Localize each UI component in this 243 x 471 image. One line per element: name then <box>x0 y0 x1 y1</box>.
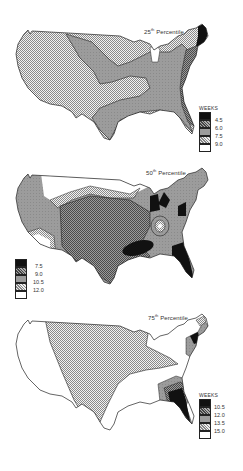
legend-swatch-black <box>199 399 211 407</box>
legend-swatch-gray <box>15 275 27 283</box>
map-title-75th: 75th Percentile <box>148 313 188 321</box>
legend-value: 12.0 <box>33 287 44 293</box>
legend-swatch-dense <box>199 120 211 128</box>
map-title-50th: 50th Percentile <box>146 168 186 176</box>
legend-value: 7.5 <box>215 133 223 139</box>
legend-swatch-black <box>199 112 211 120</box>
legend-value: 9.0 <box>35 271 43 277</box>
legend-header: WEEKS <box>199 105 218 111</box>
legend-swatch-gray <box>199 415 211 423</box>
map-panel-50th-percentile: 50th Percentile 7.5 9.0 10.5 12.0 <box>0 160 243 310</box>
map-panel-25th-percentile: 25th Percentile WEEKS 4.5 6.0 7.5 9.0 <box>0 0 243 160</box>
legend-25th: WEEKS 4.5 6.0 7.5 9.0 <box>199 105 218 152</box>
map-panel-75th-percentile: 75th Percentile WEEKS 10.5 12.0 13.5 15.… <box>0 310 243 471</box>
map-title-25th: 25th Percentile <box>144 27 184 35</box>
legend-header: WEEKS <box>199 392 218 398</box>
legend-value: 12.0 <box>214 412 225 418</box>
legend-swatch-white <box>199 144 211 152</box>
legend-value: 9.0 <box>215 141 223 147</box>
legend-value: 13.5 <box>214 420 225 426</box>
legend-swatch-checker <box>199 136 211 144</box>
legend-50th: 7.5 9.0 10.5 12.0 <box>15 259 27 299</box>
legend-swatch-white <box>15 291 27 299</box>
legend-value: 7.5 <box>35 263 43 269</box>
legend-value: 10.5 <box>214 404 225 410</box>
legend-swatch-black <box>15 259 27 267</box>
legend-swatch-gray <box>199 128 211 136</box>
legend-swatch-dense <box>15 267 27 275</box>
legend-swatch-dense <box>199 407 211 415</box>
legend-value: 6.0 <box>215 125 223 131</box>
us-map-75th <box>0 310 243 471</box>
legend-value: 15.0 <box>214 428 225 434</box>
legend-75th: WEEKS 10.5 12.0 13.5 15.0 <box>199 392 218 439</box>
legend-swatch-white <box>199 431 211 439</box>
legend-value: 4.5 <box>215 117 223 123</box>
legend-swatch-checker <box>199 423 211 431</box>
legend-swatch-checker <box>15 283 27 291</box>
legend-value: 10.5 <box>33 279 44 285</box>
